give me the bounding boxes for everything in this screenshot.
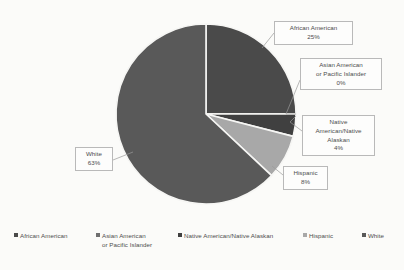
callout-native-american-value: 4% (306, 144, 371, 153)
callout-native-american: Native American/Native Alaskan 4% (302, 115, 375, 156)
legend-label: Asian American (102, 232, 146, 239)
callout-hispanic-label: Hispanic (287, 169, 324, 178)
chart-legend: African American Asian American or Pacif… (0, 232, 404, 268)
pie-slices (116, 24, 296, 204)
callout-white-value: 63% (79, 159, 109, 168)
leader-line-african-american (262, 33, 274, 48)
legend-marker-icon (96, 233, 100, 237)
legend-item-white[interactable]: White (362, 232, 384, 241)
legend-label-line2: or Pacific Islander (102, 241, 152, 250)
pie-plot-area: African American 25% Asian American or P… (0, 0, 404, 222)
callout-native-american-label-line3: Alaskan (306, 136, 371, 145)
callout-asian-american-value: 0% (304, 79, 378, 88)
legend-marker-icon (178, 233, 182, 237)
callout-african-american-label: African American (278, 24, 349, 33)
legend-item-hispanic[interactable]: Hispanic (303, 232, 333, 241)
callout-hispanic: Hispanic 8% (283, 166, 328, 190)
legend-item-native-american[interactable]: Native American/Native Alaskan (178, 232, 273, 241)
callout-asian-american: Asian American or Pacific Islander 0% (300, 58, 382, 90)
legend-label: White (368, 232, 384, 239)
legend-label: Native American/Native Alaskan (184, 232, 273, 239)
callout-asian-american-label-line1: Asian American (304, 61, 378, 70)
callout-native-american-label-line2: American/Native (306, 127, 371, 136)
callout-african-american-value: 25% (278, 33, 349, 42)
callout-asian-american-label-line2: or Pacific Islander (304, 70, 378, 79)
callout-native-american-label-line1: Native (306, 118, 371, 127)
legend-marker-icon (362, 233, 366, 237)
legend-marker-icon (14, 233, 18, 237)
callout-african-american: African American 25% (274, 21, 353, 45)
callout-hispanic-value: 8% (287, 178, 324, 187)
callout-white: White 63% (75, 147, 113, 171)
legend-item-african-american[interactable]: African American (14, 232, 68, 241)
legend-label: Hispanic (309, 232, 333, 239)
legend-label: African American (20, 232, 68, 239)
pie-chart-figure: African American 25% Asian American or P… (0, 0, 404, 270)
callout-white-label: White (79, 150, 109, 159)
legend-item-asian-american[interactable]: Asian American or Pacific Islander (96, 232, 152, 250)
legend-marker-icon (303, 233, 307, 237)
